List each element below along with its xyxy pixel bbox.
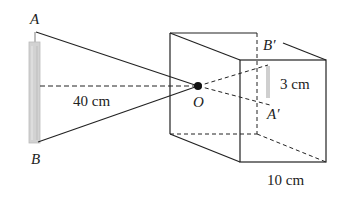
label-box-depth: 10 cm <box>267 172 304 188</box>
label-O: O <box>193 94 204 110</box>
label-B-prime: B′ <box>263 37 276 53</box>
label-object-distance: 40 cm <box>73 93 110 109</box>
inverted-image <box>266 66 270 98</box>
label-A-prime: A′ <box>266 106 280 122</box>
label-image-height: 3 cm <box>280 76 310 92</box>
label-B: B <box>31 151 40 167</box>
pinhole-point <box>194 82 202 90</box>
candle-object <box>29 32 40 143</box>
label-A: A <box>29 11 40 27</box>
light-rays <box>36 32 198 142</box>
pinhole-camera-diagram: A B O A′ B′ 40 cm 3 cm 10 cm <box>0 0 343 197</box>
